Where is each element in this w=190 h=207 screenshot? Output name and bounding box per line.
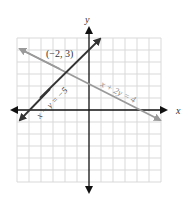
coordinate-plane: y x (−2, 3) x − y = −5 x + 2y = 4 <box>0 0 190 207</box>
line1-equation-label: x − y = −5 <box>34 85 70 121</box>
x-axis-label: x <box>175 105 181 116</box>
y-axis-label: y <box>84 14 90 25</box>
intersection-point-label: (−2, 3) <box>46 48 73 60</box>
